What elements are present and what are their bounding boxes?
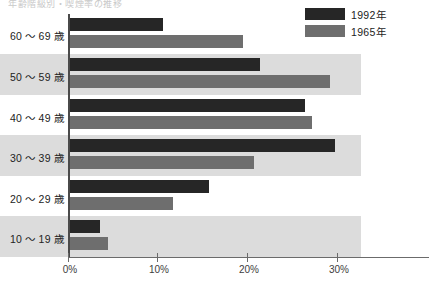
x-axis-line — [68, 257, 429, 258]
bar-1965-30-39 — [70, 156, 254, 169]
chart-legend: 1992年 1965年 — [305, 7, 421, 41]
legend-label-1965: 1965年 — [351, 24, 386, 39]
x-tick-2 — [247, 253, 248, 262]
category-label-30-39: 30 ～ 39 歳 — [0, 150, 64, 165]
legend-swatch-1992-icon — [305, 8, 345, 20]
legend-swatch-1965-icon — [305, 25, 345, 37]
category-label-60-69: 60 ～ 69 歳 — [0, 28, 64, 43]
x-tick-label-2: 20% — [239, 264, 259, 275]
category-label-40-49: 40 ～ 49 歳 — [0, 110, 64, 125]
bar-chart: 年齢階級別・喫煙率の推移 60 ～ 69 歳 50 ～ 59 歳 40 ～ 49… — [0, 0, 429, 283]
bar-1992-60-69 — [70, 18, 163, 31]
bar-1992-10-19 — [70, 220, 100, 233]
x-tick-0 — [68, 253, 69, 262]
bar-1992-40-49 — [70, 99, 305, 112]
bar-1992-30-39 — [70, 139, 335, 152]
legend-item-1965: 1965年 — [305, 24, 421, 38]
bar-1965-10-19 — [70, 237, 108, 250]
category-label-20-29: 20 ～ 29 歳 — [0, 191, 64, 206]
category-label-10-19: 10 ～ 19 歳 — [0, 231, 64, 246]
legend-label-1992: 1992年 — [351, 7, 386, 22]
chart-title-cropped: 年齢階級別・喫煙率の推移 — [8, 0, 218, 8]
bar-1965-50-59 — [70, 75, 330, 88]
x-tick-1 — [157, 253, 158, 262]
x-tick-label-1: 10% — [149, 264, 169, 275]
bar-1992-50-59 — [70, 58, 260, 71]
category-label-50-59: 50 ～ 59 歳 — [0, 69, 64, 84]
bar-1965-40-49 — [70, 116, 312, 129]
x-tick-label-3: 30% — [329, 264, 349, 275]
bar-1992-20-29 — [70, 180, 209, 193]
legend-item-1992: 1992年 — [305, 7, 421, 21]
bar-1965-60-69 — [70, 35, 243, 48]
x-tick-3 — [337, 253, 338, 262]
x-tick-label-0: 0% — [63, 264, 77, 275]
bar-1965-20-29 — [70, 197, 173, 210]
